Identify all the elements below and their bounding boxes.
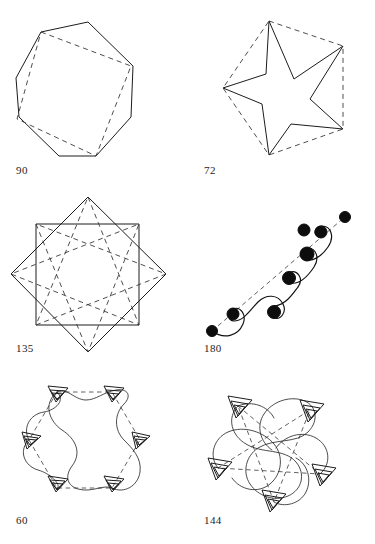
figure-72-drawing	[188, 0, 375, 190]
figure-grid: 90 72 135	[0, 0, 375, 544]
figure-label-144: 144	[204, 515, 222, 526]
figure-label-135: 135	[16, 343, 34, 354]
figure-cell-90[interactable]: 90	[0, 0, 188, 190]
figure-cell-135[interactable]: 135	[0, 190, 188, 370]
figure-label-72: 72	[204, 165, 216, 176]
figure-60-drawing	[0, 370, 188, 544]
figure-label-90: 90	[16, 165, 28, 176]
figure-cell-180[interactable]: 180	[188, 190, 375, 370]
figure-cell-144[interactable]: 144	[188, 370, 375, 544]
figure-label-60: 60	[16, 515, 28, 526]
figure-cell-60[interactable]: 60	[0, 370, 188, 544]
figure-label-180: 180	[204, 343, 222, 354]
figure-cell-72[interactable]: 72	[188, 0, 375, 190]
figure-sheet: 90 72 135	[0, 0, 375, 544]
figure-90-drawing	[0, 0, 188, 190]
